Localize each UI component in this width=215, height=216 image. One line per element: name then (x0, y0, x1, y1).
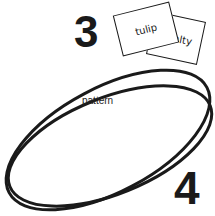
card-front-text: tulip (134, 21, 158, 37)
numeral-four: 4 (174, 165, 200, 211)
numeral-three: 3 (74, 10, 98, 54)
pattern-label: pattern (82, 95, 113, 106)
